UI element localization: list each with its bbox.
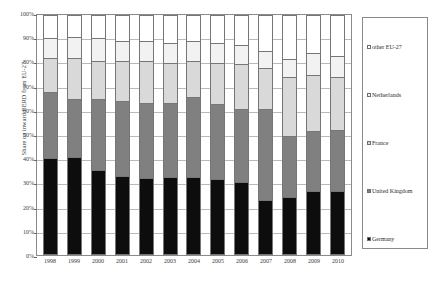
bar-segment[interactable] (210, 43, 225, 63)
bar-segment[interactable] (139, 41, 154, 60)
bar-segment[interactable] (67, 15, 82, 37)
bar-column[interactable] (306, 15, 321, 255)
bar-segment[interactable] (43, 15, 58, 38)
legend-label: Germany (372, 236, 394, 242)
bar-segment[interactable] (91, 170, 106, 255)
bar-segment[interactable] (139, 178, 154, 255)
legend-swatch-icon (367, 141, 371, 145)
bar-segment[interactable] (210, 15, 225, 43)
bar-segment[interactable] (163, 15, 178, 43)
bar-column[interactable] (282, 15, 297, 255)
bar-segment[interactable] (306, 53, 321, 75)
bar-segment[interactable] (258, 51, 273, 68)
bar-segment[interactable] (43, 92, 58, 158)
x-tick-label: 1998 (43, 258, 58, 264)
bar-segment[interactable] (330, 130, 345, 191)
bar-segment[interactable] (115, 61, 130, 102)
bar-segment[interactable] (91, 99, 106, 170)
plot-area (36, 14, 352, 256)
bar-segment[interactable] (234, 109, 249, 182)
legend-item[interactable]: other EU-27 (367, 44, 402, 50)
bar-column[interactable] (67, 15, 82, 255)
y-tick-label: 100% (8, 11, 34, 17)
legend-label: France (372, 140, 388, 146)
legend-item[interactable]: United Kingdom (367, 188, 413, 194)
bar-segment[interactable] (115, 41, 130, 60)
bar-segment[interactable] (139, 103, 154, 179)
x-tick-label: 2009 (307, 258, 322, 264)
bar-segment[interactable] (282, 77, 297, 136)
bar-segment[interactable] (210, 104, 225, 180)
bar-segment[interactable] (330, 15, 345, 56)
bar-segment[interactable] (258, 200, 273, 255)
bar-column[interactable] (115, 15, 130, 255)
bar-segment[interactable] (210, 179, 225, 255)
bar-segment[interactable] (139, 61, 154, 103)
bar-segment[interactable] (282, 136, 297, 197)
bar-column[interactable] (163, 15, 178, 255)
bar-segment[interactable] (282, 197, 297, 255)
bar-segment[interactable] (163, 177, 178, 255)
chart-legend: other EU-27NetherlandsFranceUnited Kingd… (362, 17, 428, 249)
bar-segment[interactable] (306, 15, 321, 53)
bar-segment[interactable] (91, 15, 106, 38)
legend-label: United Kingdom (372, 188, 413, 194)
bar-segment[interactable] (258, 15, 273, 51)
bar-segment[interactable] (186, 15, 201, 41)
legend-item[interactable]: France (367, 140, 388, 146)
y-tick-label: 0% (8, 253, 34, 259)
bar-segment[interactable] (234, 64, 249, 108)
bar-segment[interactable] (115, 176, 130, 255)
bar-segment[interactable] (234, 45, 249, 64)
x-tick-label: 2008 (283, 258, 298, 264)
bar-segment[interactable] (115, 101, 130, 175)
bar-segment[interactable] (91, 38, 106, 61)
bar-segment[interactable] (91, 61, 106, 99)
bar-segment[interactable] (258, 68, 273, 109)
bar-segment[interactable] (306, 75, 321, 131)
bar-segment[interactable] (163, 103, 178, 177)
bar-segment[interactable] (330, 56, 345, 78)
bar-segment[interactable] (330, 191, 345, 255)
bar-segment[interactable] (330, 77, 345, 130)
bar-segment[interactable] (67, 157, 82, 255)
bar-segment[interactable] (186, 61, 201, 97)
bar-segment[interactable] (210, 63, 225, 104)
bar-segment[interactable] (234, 182, 249, 255)
legend-item[interactable]: Netherlands (367, 92, 401, 98)
bar-segment[interactable] (67, 99, 82, 157)
bar-segment[interactable] (43, 38, 58, 58)
bar-segment[interactable] (115, 15, 130, 41)
bar-segment[interactable] (139, 15, 154, 41)
bar-segment[interactable] (67, 37, 82, 59)
bar-column[interactable] (139, 15, 154, 255)
y-tick-label: 80% (8, 59, 34, 65)
legend-item[interactable]: Germany (367, 236, 394, 242)
y-tick-label: 60% (8, 108, 34, 114)
bar-segment[interactable] (306, 191, 321, 255)
bar-column[interactable] (234, 15, 249, 255)
bar-column[interactable] (210, 15, 225, 255)
bar-segment[interactable] (186, 41, 201, 60)
bar-column[interactable] (330, 15, 345, 255)
bar-segment[interactable] (258, 109, 273, 200)
bar-segment[interactable] (186, 177, 201, 255)
bar-segment[interactable] (186, 97, 201, 177)
bar-segment[interactable] (234, 15, 249, 45)
y-tick-label: 30% (8, 180, 34, 186)
bar-column[interactable] (258, 15, 273, 255)
bar-segment[interactable] (67, 58, 82, 99)
bar-segment[interactable] (163, 63, 178, 103)
bar-column[interactable] (186, 15, 201, 255)
chart-figure: Share on inward BERD from EU-27 100%90%8… (0, 0, 438, 288)
legend-swatch-icon (367, 237, 371, 241)
bar-column[interactable] (43, 15, 58, 255)
bar-segment[interactable] (306, 131, 321, 191)
bar-segment[interactable] (282, 15, 297, 59)
x-tick-label: 2007 (259, 258, 274, 264)
bar-segment[interactable] (43, 58, 58, 92)
bar-column[interactable] (91, 15, 106, 255)
bar-segment[interactable] (163, 43, 178, 63)
bar-segment[interactable] (282, 59, 297, 77)
bar-segment[interactable] (43, 158, 58, 255)
